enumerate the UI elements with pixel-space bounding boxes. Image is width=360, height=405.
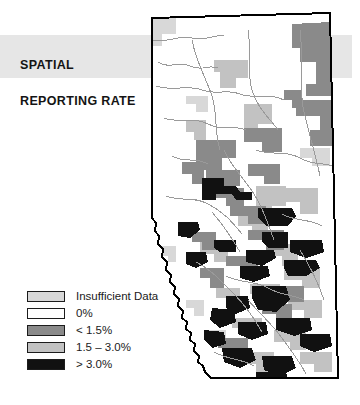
map-regions-layer: [145, 5, 350, 390]
legend-item-1-5-to-3-0: 1.5 – 3.0%: [27, 339, 158, 356]
legend-swatch-zero-percent: [27, 308, 65, 319]
legend-swatch-1-5-to-3-0: [27, 342, 65, 353]
legend-label-1-5-to-3-0: 1.5 – 3.0%: [76, 342, 131, 353]
legend-label-over-3-0: > 3.0%: [76, 359, 112, 370]
page-title-line-2: REPORTING RATE: [20, 92, 136, 110]
legend-label-zero-percent: 0%: [76, 308, 93, 319]
region-high-c6: [214, 240, 236, 252]
legend-item-zero-percent: 0%: [27, 305, 158, 322]
legend-swatch-over-3-0: [27, 359, 65, 370]
page-title: SPATIAL REPORTING RATE: [20, 38, 136, 128]
page-title-line-1: SPATIAL: [20, 56, 136, 74]
map-legend: Insufficient Data 0% < 1.5% 1.5 – 3.0% >…: [27, 288, 158, 373]
spatial-reporting-rate-figure: SPATIAL REPORTING RATE: [0, 0, 360, 405]
legend-item-under-1-5: < 1.5%: [27, 322, 158, 339]
legend-swatch-under-1-5: [27, 325, 65, 336]
legend-item-insufficient-data: Insufficient Data: [27, 288, 158, 305]
legend-label-under-1-5: < 1.5%: [76, 325, 112, 336]
legend-swatch-insufficient-data: [27, 291, 65, 302]
region-high-c3: [262, 232, 288, 248]
legend-label-insufficient-data: Insufficient Data: [76, 291, 158, 302]
legend-item-over-3-0: > 3.0%: [27, 356, 158, 373]
